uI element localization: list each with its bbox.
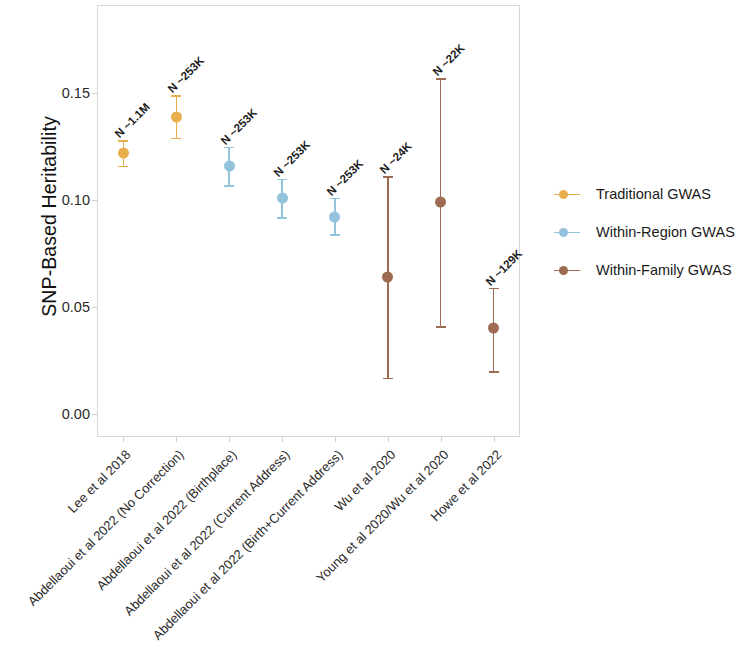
y-tick-label: 0.05 <box>28 299 90 315</box>
x-tick-mark <box>441 437 442 442</box>
y-tick-mark <box>92 93 97 94</box>
legend-label: Traditional GWAS <box>582 186 711 202</box>
x-tick-mark <box>494 437 495 442</box>
y-tick-label: 0.10 <box>28 192 90 208</box>
x-tick-mark <box>176 437 177 442</box>
y-tick-mark <box>92 200 97 201</box>
x-axis-layer: Lee et al 2018Abdellaoui et al 2022 (No … <box>97 0 520 657</box>
legend: Traditional GWASWithin-Region GWASWithin… <box>552 175 732 289</box>
legend-key-icon <box>552 263 582 277</box>
x-tick-mark <box>282 437 283 442</box>
x-tick-mark <box>123 437 124 442</box>
legend-key-dot <box>559 266 568 275</box>
legend-label: Within-Region GWAS <box>582 224 735 240</box>
y-tick-label: 0.00 <box>28 406 90 422</box>
legend-item[interactable]: Within-Family GWAS <box>552 251 732 289</box>
legend-item[interactable]: Within-Region GWAS <box>552 213 732 251</box>
legend-label: Within-Family GWAS <box>582 262 732 278</box>
y-tick-label: 0.15 <box>28 85 90 101</box>
y-tick-mark <box>92 307 97 308</box>
y-tick-mark <box>92 414 97 415</box>
legend-key-icon <box>552 187 582 201</box>
x-tick-mark <box>335 437 336 442</box>
x-tick-mark <box>229 437 230 442</box>
legend-item[interactable]: Traditional GWAS <box>552 175 732 213</box>
x-tick-mark <box>388 437 389 442</box>
legend-key-dot <box>559 228 568 237</box>
legend-key-dot <box>559 190 568 199</box>
legend-key-icon <box>552 225 582 239</box>
